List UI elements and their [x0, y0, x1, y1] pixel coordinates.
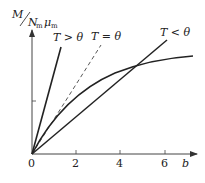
x-tick-label-4: 4: [116, 157, 123, 170]
x-tick-label-2: 2: [72, 157, 79, 170]
x-axis-label: b: [182, 157, 189, 170]
saturation-curve: [32, 56, 193, 154]
line-t-less-theta: [32, 40, 167, 154]
x-tick-label-6: 6: [161, 157, 168, 170]
x-tick-label-0: 0: [28, 157, 35, 170]
svg-text:M: M: [11, 8, 24, 21]
y-axis-label: M N m μ m: [11, 8, 58, 30]
label-t-equal-theta: T = θ: [91, 30, 122, 43]
line-t-equal-theta: [32, 45, 101, 154]
label-t-less-theta: T < θ: [160, 26, 191, 39]
line-t-greater-theta: [32, 47, 61, 154]
label-t-greater-theta: T > θ: [53, 31, 84, 44]
chart: 0 2 4 6 b M N m μ m T > θ T = θ T < θ: [0, 0, 205, 183]
svg-text:m: m: [36, 22, 43, 30]
svg-text:m: m: [51, 22, 58, 30]
